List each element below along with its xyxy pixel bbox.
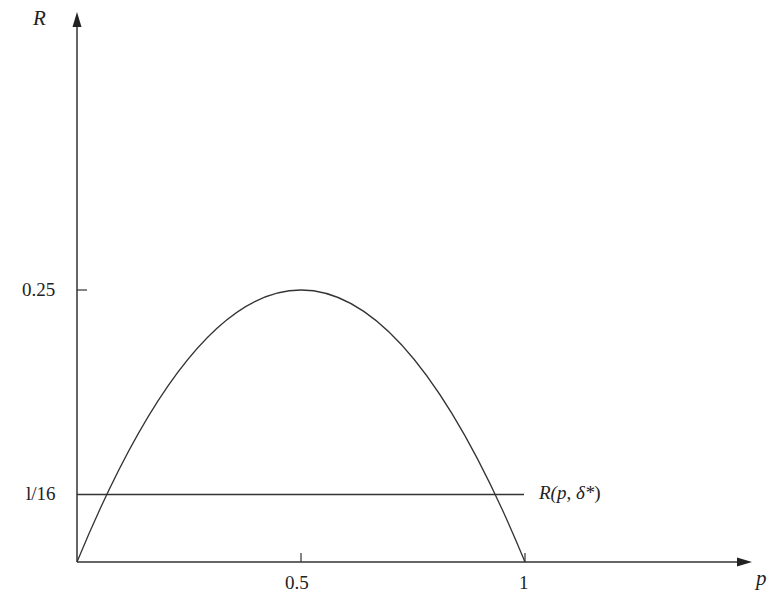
x-axis-label: p bbox=[756, 566, 767, 591]
x-tick-label-1: 1 bbox=[519, 572, 529, 594]
y-tick-label-1-16: l/16 bbox=[26, 483, 56, 505]
y-axis-label: R bbox=[33, 6, 46, 31]
annotation-close: ) bbox=[594, 482, 600, 503]
y-axis-arrow-icon bbox=[73, 12, 82, 27]
annotation-comma: , bbox=[566, 482, 576, 503]
x-tick-label-05: 0.5 bbox=[285, 572, 309, 594]
risk-curve bbox=[77, 290, 525, 562]
annotation-p: p bbox=[557, 482, 567, 503]
constant-risk-annotation: R(p, δ*) bbox=[539, 482, 601, 504]
x-axis-arrow-icon bbox=[737, 558, 752, 567]
chart-canvas bbox=[0, 0, 779, 614]
y-tick-label-025: 0.25 bbox=[22, 279, 55, 301]
annotation-delta: δ* bbox=[576, 482, 594, 503]
annotation-R: R( bbox=[539, 482, 557, 503]
